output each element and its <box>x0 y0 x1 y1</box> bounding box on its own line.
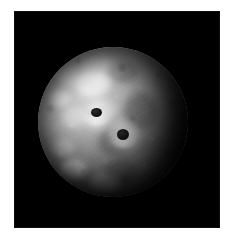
screenshot-root <box>0 0 226 236</box>
limb-darkening <box>38 47 188 197</box>
space-image-panel <box>14 11 220 228</box>
moon-disk <box>38 47 188 197</box>
